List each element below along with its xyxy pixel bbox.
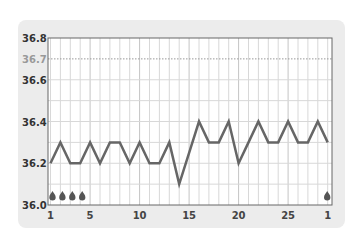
y-tick-label: 36.4 bbox=[22, 117, 47, 128]
y-tick-label: 36.6 bbox=[22, 75, 47, 86]
x-tick-label: 1 bbox=[324, 210, 331, 221]
x-tick-label: 20 bbox=[232, 210, 246, 221]
x-tick-label: 5 bbox=[87, 210, 94, 221]
y-tick-label: 36.8 bbox=[22, 33, 47, 44]
x-tick-label: 1 bbox=[47, 210, 54, 221]
x-tick-label: 25 bbox=[281, 210, 295, 221]
x-tick-label: 10 bbox=[133, 210, 147, 221]
x-tick-label: 15 bbox=[182, 210, 196, 221]
temperature-line-chart: 36.036.236.436.636.736.815101520251 bbox=[0, 0, 360, 246]
y-tick-label: 36.2 bbox=[22, 158, 47, 169]
y-tick-label: 36.0 bbox=[22, 200, 47, 211]
y-tick-label: 36.7 bbox=[22, 54, 47, 65]
